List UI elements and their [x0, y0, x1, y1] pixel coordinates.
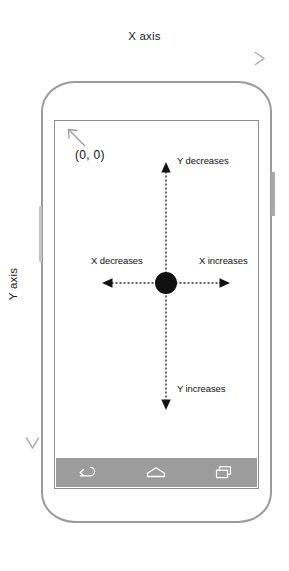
home-icon [145, 465, 167, 481]
android-navigation-bar [56, 458, 258, 487]
down-arrow-icon [161, 400, 170, 411]
x-increases-label: X increases [199, 255, 248, 266]
origin-dot-icon [155, 272, 177, 294]
back-icon [79, 465, 99, 481]
recents-button[interactable] [204, 461, 244, 485]
right-arrow-icon [220, 278, 231, 287]
home-button[interactable] [136, 461, 176, 485]
back-button[interactable] [69, 461, 109, 485]
diagram-canvas: X axis Y axis [0, 0, 289, 571]
x-decreases-label: X decreases [91, 255, 143, 266]
left-arrow-icon [102, 278, 113, 287]
up-arrow-icon [161, 162, 170, 173]
recents-icon [214, 465, 234, 481]
y-decreases-label: Y decreases [177, 155, 229, 166]
origin-coordinate-label: (0, 0) [75, 148, 105, 162]
y-increases-label: Y increases [177, 383, 225, 394]
origin-pointer-icon [69, 130, 86, 147]
